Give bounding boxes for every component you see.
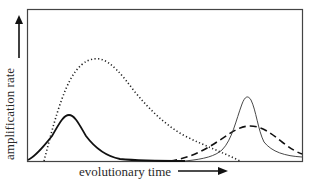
curve-solid-thick (28, 115, 185, 161)
y-axis-arrowhead-icon (15, 15, 23, 24)
chart-figure (0, 0, 314, 188)
y-axis-label: amplification rate (2, 68, 18, 160)
curve-dotted (44, 59, 240, 161)
curve-dashed (170, 126, 302, 161)
x-axis-arrowhead-icon (218, 167, 228, 175)
curve-solid-thin (185, 97, 302, 161)
x-axis-label: evolutionary time (79, 164, 171, 180)
plot-frame (28, 10, 303, 162)
